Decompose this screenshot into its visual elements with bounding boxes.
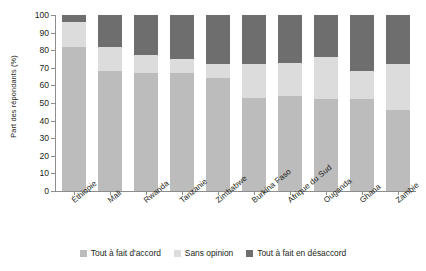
bar-segment xyxy=(134,55,158,73)
bar-segment xyxy=(278,15,302,63)
y-tick-label: 60 xyxy=(39,81,49,90)
y-tick-mark xyxy=(51,156,55,157)
legend-swatch-icon xyxy=(246,250,253,257)
bar-column xyxy=(242,15,266,191)
y-tick-mark xyxy=(51,103,55,104)
bar-column xyxy=(134,15,158,191)
legend-item[interactable]: Sans opinion xyxy=(174,249,233,257)
bar-segment xyxy=(206,64,230,78)
y-tick-mark xyxy=(51,173,55,174)
bar-group xyxy=(56,15,416,191)
y-tick-mark xyxy=(51,33,55,34)
y-axis-title: Part des répondants (%) xyxy=(9,22,18,172)
bar-column xyxy=(206,15,230,191)
bar-segment xyxy=(62,47,86,191)
legend-item[interactable]: Tout à fait en désaccord xyxy=(246,249,346,257)
bar-segment xyxy=(206,15,230,64)
bar-column xyxy=(386,15,410,191)
legend-swatch-icon xyxy=(174,250,181,257)
y-tick-label: 90 xyxy=(39,28,49,37)
bar-column xyxy=(350,15,374,191)
bar-segment xyxy=(98,47,122,72)
bar-segment xyxy=(62,15,86,22)
y-tick-label: 40 xyxy=(39,116,49,125)
bar-segment xyxy=(242,15,266,64)
y-tick-label: 0 xyxy=(44,187,49,196)
bar-segment xyxy=(314,57,338,99)
bar-segment xyxy=(350,71,374,99)
y-tick-mark xyxy=(51,68,55,69)
y-tick-mark xyxy=(51,15,55,16)
y-tick-label: 30 xyxy=(39,134,49,143)
y-tick-label: 10 xyxy=(39,169,49,178)
y-tick-label: 70 xyxy=(39,64,49,73)
legend-swatch-icon xyxy=(80,250,87,257)
bar-segment xyxy=(170,59,194,73)
bar-segment xyxy=(350,99,374,191)
bar-segment xyxy=(134,15,158,55)
bar-segment xyxy=(386,64,410,110)
chart-legend: Tout à fait d'accordSans opinionTout à f… xyxy=(0,249,426,257)
legend-label: Tout à fait en désaccord xyxy=(257,249,346,257)
bar-column xyxy=(62,15,86,191)
plot-area: 0102030405060708090100 ÉthiopieMaliRwand… xyxy=(56,15,416,191)
y-tick-label: 80 xyxy=(39,46,49,55)
y-tick-label: 50 xyxy=(39,99,49,108)
bar-segment xyxy=(170,73,194,191)
legend-label: Tout à fait d'accord xyxy=(91,249,161,257)
bar-segment xyxy=(206,78,230,191)
bar-segment xyxy=(134,73,158,191)
y-tick-mark xyxy=(51,191,55,192)
y-tick-mark xyxy=(51,138,55,139)
bar-segment xyxy=(350,15,374,71)
bar-segment xyxy=(242,64,266,97)
bar-column xyxy=(278,15,302,191)
bar-segment xyxy=(170,15,194,59)
bar-segment xyxy=(386,15,410,64)
y-tick-mark xyxy=(51,121,55,122)
y-tick-mark xyxy=(51,85,55,86)
y-tick-label: 100 xyxy=(35,11,49,20)
bar-segment xyxy=(314,15,338,57)
bar-segment xyxy=(386,110,410,191)
legend-item[interactable]: Tout à fait d'accord xyxy=(80,249,161,257)
bar-column xyxy=(98,15,122,191)
stacked-bar-chart: Part des répondants (%) 0102030405060708… xyxy=(0,0,426,271)
bar-segment xyxy=(98,15,122,47)
y-tick-mark xyxy=(51,50,55,51)
bar-segment xyxy=(278,63,302,96)
bar-segment xyxy=(98,71,122,191)
bar-segment xyxy=(62,22,86,47)
bar-column xyxy=(170,15,194,191)
legend-label: Sans opinion xyxy=(185,249,233,257)
y-tick-label: 20 xyxy=(39,152,49,161)
